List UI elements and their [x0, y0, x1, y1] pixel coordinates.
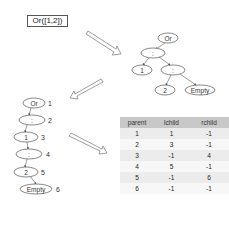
chain-index-3: 3	[41, 134, 45, 141]
table-row: 2 3 -1	[120, 139, 229, 150]
table-row: 5 -1 6	[120, 172, 229, 183]
chain-node-or: Or	[30, 100, 38, 107]
chain-index-4: 4	[46, 151, 50, 158]
tree-node-two: 2	[163, 87, 167, 94]
header-parent: parent	[120, 117, 154, 128]
chain-node-cons: :	[31, 117, 33, 124]
arrow-left-down-icon	[70, 79, 103, 99]
arrow-right-down-icon	[86, 31, 121, 55]
cell-rchild: -1	[189, 183, 229, 194]
chain-index-6: 6	[56, 186, 60, 193]
cell-lchild: 5	[154, 161, 189, 172]
tree-node-cons-2: :	[172, 67, 174, 74]
child-table: parent lchild rchild 1 1 -1 2 3 -1 3 -1 …	[120, 117, 229, 194]
table-row: 3 -1 4	[120, 150, 229, 161]
cell-lchild: 1	[154, 128, 189, 139]
tree-node-empty: Empty	[191, 87, 210, 95]
cell-rchild: -1	[189, 139, 229, 150]
cell-parent: 1	[120, 128, 154, 139]
cell-rchild: -1	[189, 161, 229, 172]
header-rchild: rchild	[189, 117, 229, 128]
chain-index-5: 5	[41, 169, 45, 176]
table-row: 6 -1 -1	[120, 183, 229, 194]
cell-rchild: -1	[189, 128, 229, 139]
chain-node-one: 1	[24, 134, 28, 141]
cell-lchild: -1	[154, 172, 189, 183]
table-header-row: parent lchild rchild	[120, 117, 229, 128]
header-lchild: lchild	[154, 117, 189, 128]
cell-parent: 3	[120, 150, 154, 161]
cell-lchild: -1	[154, 150, 189, 161]
cell-lchild: 3	[154, 139, 189, 150]
cell-parent: 2	[120, 139, 154, 150]
table-row: 1 1 -1	[120, 128, 229, 139]
chain-node-cons-2: :	[28, 151, 30, 158]
tree-node-or: Or	[164, 35, 172, 42]
tree-node-one: 1	[140, 67, 144, 74]
cell-rchild: 4	[189, 150, 229, 161]
chain-node-two: 2	[24, 169, 28, 176]
arrow-right-down-icon-2	[69, 133, 107, 154]
cell-parent: 4	[120, 161, 154, 172]
chain-node-empty: Empty	[27, 186, 46, 194]
table-row: 4 5 -1	[120, 161, 229, 172]
cell-parent: 6	[120, 183, 154, 194]
chain-index-1: 1	[48, 100, 52, 107]
chain-index-2: 2	[48, 117, 52, 124]
tree-node-cons: :	[152, 50, 154, 57]
cell-rchild: 6	[189, 172, 229, 183]
cell-lchild: -1	[154, 183, 189, 194]
cell-parent: 5	[120, 172, 154, 183]
